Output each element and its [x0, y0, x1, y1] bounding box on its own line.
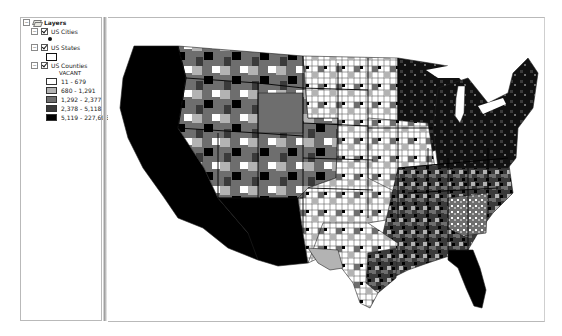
toc-layer-us-counties[interactable]: − US Counties [31, 62, 87, 69]
legend-class-row[interactable]: 680 - 1,291 [46, 87, 96, 94]
toc-layer-us-cities[interactable]: − US Cities [31, 28, 78, 35]
layer-visibility-checkbox[interactable] [41, 44, 48, 51]
legend-class-row[interactable]: 5,119 - 227,696 [46, 114, 109, 121]
class-label: 11 - 679 [61, 78, 86, 85]
class-label: 5,119 - 227,696 [61, 114, 109, 121]
legend-class-row[interactable]: 11 - 679 [46, 78, 86, 85]
class-swatch-icon [46, 78, 57, 85]
class-swatch-icon [46, 87, 57, 94]
collapse-icon[interactable]: − [31, 28, 38, 35]
toc-root-label: Layers [44, 19, 66, 26]
panel-splitter[interactable] [103, 17, 107, 321]
legend-symbol-row [48, 37, 52, 41]
point-symbol-icon [48, 37, 52, 41]
us-counties-choropleth-map[interactable] [108, 18, 545, 322]
collapse-icon[interactable]: − [31, 62, 38, 69]
legend-field-name: VACANT [59, 70, 81, 76]
layer-label: US Counties [51, 62, 87, 69]
toc-layer-us-states[interactable]: − US States [31, 44, 80, 51]
layer-visibility-checkbox[interactable] [41, 62, 48, 69]
collapse-icon[interactable]: − [31, 44, 38, 51]
class-label: 2,378 - 5,118 [61, 105, 101, 112]
collapse-icon[interactable]: − [23, 19, 30, 26]
counties-layer [120, 46, 538, 308]
layer-label: US States [51, 44, 80, 51]
legend-class-row[interactable]: 2,378 - 5,118 [46, 105, 101, 112]
layers-icon [33, 20, 41, 26]
layer-visibility-checkbox[interactable] [41, 28, 48, 35]
table-of-contents-panel: − Layers − US Cities − US States − US Co… [20, 17, 102, 321]
class-label: 680 - 1,291 [61, 87, 96, 94]
toc-root-layers[interactable]: − Layers [23, 19, 66, 26]
layer-label: US Cities [51, 28, 78, 35]
class-label: 1,292 - 2,377 [61, 96, 101, 103]
class-swatch-icon [46, 96, 57, 103]
field-label: VACANT [59, 70, 81, 76]
class-swatch-icon [46, 105, 57, 112]
class-swatch-icon [46, 114, 57, 121]
polygon-symbol-icon [46, 53, 57, 61]
legend-symbol-row [46, 53, 57, 61]
legend-class-row[interactable]: 1,292 - 2,377 [46, 96, 101, 103]
map-display[interactable] [108, 17, 545, 322]
